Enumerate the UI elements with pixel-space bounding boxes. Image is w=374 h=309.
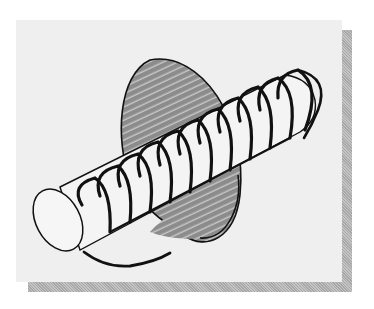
solenoid-illustration [0, 0, 374, 309]
lead-wire-bottom [84, 252, 170, 266]
